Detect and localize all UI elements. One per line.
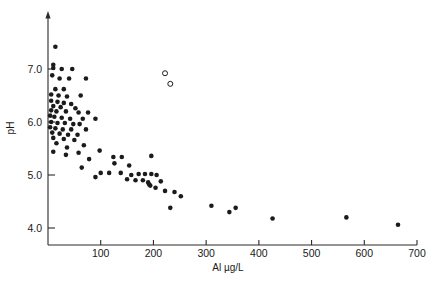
data-point [50,130,55,135]
data-point [49,92,54,97]
data-point [87,157,92,162]
data-point [118,171,123,176]
data-point [70,67,75,72]
y-tick-label: 6.0 [27,116,42,128]
data-point [49,120,54,125]
data-point [149,172,154,177]
data-point [84,76,89,81]
x-tick-label: 700 [408,247,426,259]
data-point [75,132,80,137]
data-point [93,175,98,180]
data-point [54,109,59,114]
data-point-open [168,81,173,86]
data-point [149,154,154,159]
x-tick-label: 100 [92,247,110,259]
data-point [125,177,130,182]
data-point [148,183,153,188]
data-point [64,153,69,158]
data-point [51,136,56,141]
data-point [62,87,67,92]
data-point [141,178,146,183]
data-point [54,141,59,146]
data-point [71,122,76,127]
data-point [76,110,81,115]
x-tick-label: 400 [250,247,268,259]
data-point [69,127,74,132]
data-point [82,143,87,148]
data-point [68,117,73,122]
data-point [49,108,54,113]
x-tick-label: 300 [197,247,215,259]
data-point [233,206,238,211]
data-point [136,172,141,177]
data-point [120,155,125,160]
data-point [227,210,232,215]
y-tick-label: 5.0 [27,169,42,181]
data-point [159,179,164,184]
data-point [86,110,91,115]
data-point [52,114,57,119]
x-tick-label: 600 [356,247,374,259]
data-point [80,117,85,122]
data-point [57,76,62,81]
x-axis-title: Al µg/L [212,262,244,273]
data-point [55,121,60,126]
data-point [396,223,401,228]
data-point [133,178,138,183]
data-point [67,76,72,81]
data-point [49,99,54,104]
data-point [179,194,184,199]
y-axis-arrow-icon [45,11,50,19]
data-point [98,171,103,176]
y-axis-title: pH [5,122,16,135]
data-point [48,113,53,118]
data-point [60,127,65,132]
data-point [48,125,53,130]
ticks-group [48,69,417,245]
data-point [93,117,98,122]
data-point [78,93,83,98]
data-point [270,216,275,221]
x-tick-label: 500 [303,247,321,259]
data-point [143,172,148,177]
data-point [50,73,55,78]
y-tick-label: 4.0 [27,222,42,234]
data-point [72,138,77,143]
data-point [76,150,81,155]
data-point [163,189,168,194]
data-point [209,203,214,208]
data-point [65,145,70,150]
data-point [58,105,63,110]
data-point [59,67,64,72]
data-point [53,87,58,92]
tick-labels-group: 1002003004005006007004.05.06.07.0 [27,63,426,259]
data-point [129,173,134,178]
data-point [111,155,116,160]
data-point [172,190,177,195]
data-point [53,126,58,131]
data-point [53,44,58,49]
data-point [51,104,56,109]
data-point [57,131,62,136]
x-tick-label: 200 [145,247,163,259]
data-point [97,148,102,153]
data-point [66,132,71,137]
data-point [77,122,82,127]
data-point [127,163,132,168]
data-point [344,215,349,220]
data-point [84,127,89,132]
data-point [153,185,158,190]
scatter-plot-figure: 1002003004005006007004.05.06.07.0 Al µg/… [0,0,446,287]
axes-group [45,11,417,245]
data-point [62,101,67,106]
plot-canvas: 1002003004005006007004.05.06.07.0 Al µg/… [0,0,446,287]
data-point [112,161,117,166]
data-point [63,121,68,126]
data-point [55,100,60,105]
data-point [64,109,69,114]
data-point [51,66,56,71]
data-point [154,173,159,178]
data-point [107,171,112,176]
data-point [56,93,61,98]
data-point [73,106,78,111]
